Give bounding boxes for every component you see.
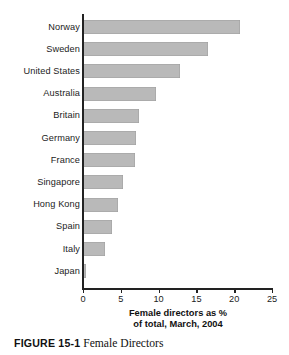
x-axis-tick-label: 5 — [106, 294, 136, 305]
bar-row: Singapore — [0, 171, 289, 193]
x-axis-title: Female directors as % of total, March, 2… — [83, 308, 273, 331]
figure-caption-text: Female Directors — [83, 337, 163, 350]
bar — [83, 175, 123, 189]
category-label: United States — [0, 66, 80, 77]
x-axis-tick — [272, 288, 273, 293]
bar-row: Germany — [0, 127, 289, 149]
category-label: Germany — [0, 133, 80, 144]
category-label: Italy — [0, 244, 80, 255]
bar-row: France — [0, 149, 289, 171]
category-label: Hong Kong — [0, 199, 80, 210]
category-label: Japan — [0, 266, 80, 277]
x-axis-tick — [121, 288, 122, 293]
category-label: Singapore — [0, 177, 80, 188]
category-label: Spain — [0, 221, 80, 232]
x-axis-tick-label: 15 — [181, 294, 211, 305]
figure-container: NorwaySwedenUnited StatesAustraliaBritai… — [0, 0, 289, 355]
bar-row: Australia — [0, 83, 289, 105]
x-axis-tick — [234, 288, 235, 293]
bar — [83, 64, 180, 78]
bar-row: United States — [0, 60, 289, 82]
bar — [83, 153, 135, 167]
bar-row: Britain — [0, 105, 289, 127]
x-axis-tick — [83, 288, 84, 293]
bar — [83, 20, 240, 34]
category-label: Australia — [0, 88, 80, 99]
bar — [83, 109, 139, 123]
figure-caption: FIGURE 15-1 Female Directors — [14, 337, 289, 350]
bar-row: Italy — [0, 238, 289, 260]
x-axis-title-line-1: Female directors as % — [83, 308, 273, 319]
x-axis-tick — [159, 288, 160, 293]
bar — [83, 198, 118, 212]
bar — [83, 242, 105, 256]
x-axis-tick-label: 20 — [219, 294, 249, 305]
x-axis-tick-label: 0 — [68, 294, 98, 305]
bar-row: Hong Kong — [0, 194, 289, 216]
bar-row: Sweden — [0, 38, 289, 60]
x-axis-line — [82, 288, 273, 290]
bar-row: Japan — [0, 260, 289, 282]
bar — [83, 131, 136, 145]
bar — [83, 87, 156, 101]
category-label: Britain — [0, 110, 80, 121]
figure-number: FIGURE 15-1 — [14, 337, 80, 349]
y-axis-line — [82, 14, 84, 289]
x-axis-title-line-2: of total, March, 2004 — [83, 319, 273, 330]
x-axis-tick — [196, 288, 197, 293]
category-label: France — [0, 155, 80, 166]
category-label: Sweden — [0, 44, 80, 55]
category-label: Norway — [0, 22, 80, 33]
bar-row: Spain — [0, 216, 289, 238]
x-axis-tick-label: 25 — [257, 294, 287, 305]
bar-row: Norway — [0, 16, 289, 38]
bar-chart-plot: NorwaySwedenUnited StatesAustraliaBritai… — [0, 0, 289, 300]
x-axis-tick-label: 10 — [144, 294, 174, 305]
bar — [83, 42, 208, 56]
bar — [83, 220, 112, 234]
